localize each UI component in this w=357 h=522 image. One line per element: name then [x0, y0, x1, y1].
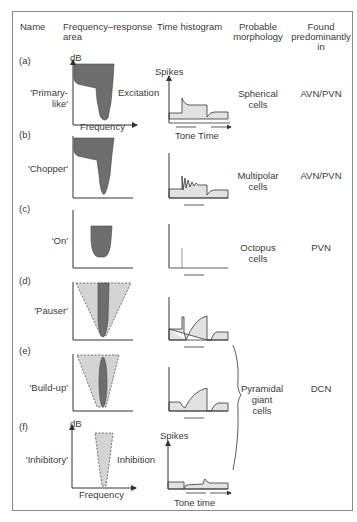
histogram-c — [169, 224, 228, 275]
histogram-a — [169, 76, 231, 127]
freq-response-a — [73, 60, 137, 125]
freq-response-c — [73, 210, 133, 268]
freq-response-f — [72, 425, 136, 488]
freq-response-b — [73, 136, 133, 198]
brace — [233, 345, 241, 470]
freq-response-e — [73, 354, 133, 411]
histogram-e — [169, 367, 228, 418]
freq-response-d — [73, 282, 133, 340]
histogram-b — [169, 153, 228, 205]
histogram-f — [168, 441, 231, 493]
histogram-d — [169, 297, 228, 347]
diagram-graphics — [0, 0, 357, 522]
